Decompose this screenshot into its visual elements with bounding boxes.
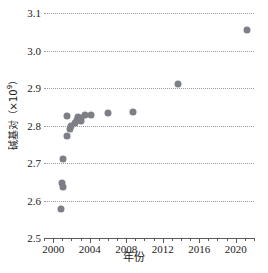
x-axis-title: 年份 — [0, 252, 268, 264]
y-axis-tick-label: 2.5 — [27, 233, 41, 244]
y-axis-tick-label: 2.8 — [27, 120, 41, 131]
y-axis-tick-label: 2.9 — [27, 83, 41, 94]
y-axis-title-base: 碱基对（×10 — [8, 89, 19, 150]
x-axis-tick-labels: 200020042008201220162020 — [44, 13, 254, 273]
y-axis-title-tail: ） — [8, 75, 19, 85]
base-pairs-by-year-scatter-chart: 2.52.62.72.82.93.03.1 200020042008201220… — [0, 0, 268, 273]
x-axis-minor-tick — [254, 238, 255, 241]
y-axis-title: 碱基对（×109） — [5, 53, 18, 173]
y-axis-tick-label: 2.6 — [27, 195, 41, 206]
y-axis-title-exponent: 9 — [6, 85, 14, 89]
y-axis-tick-label: 2.7 — [27, 158, 41, 169]
y-axis-tick-label: 3.0 — [27, 45, 41, 56]
y-axis-tick-label: 3.1 — [27, 8, 41, 19]
